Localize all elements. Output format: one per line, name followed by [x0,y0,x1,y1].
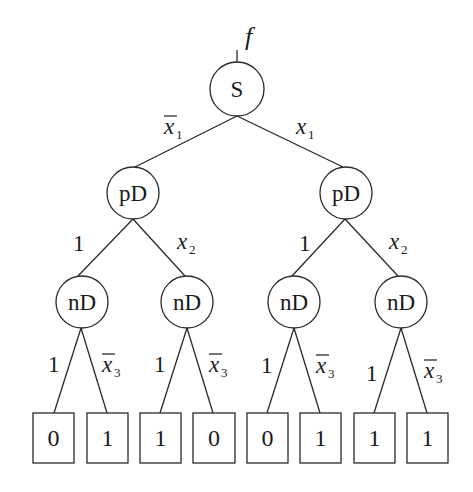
diagram-canvas: f S pD pD [0,0,473,492]
edge-root-right [237,116,343,167]
edge-root-left [135,116,237,167]
label-nd2-x3-var: x [208,352,220,377]
node-s: S [210,62,264,116]
label-pdr-x2: x 2 [388,229,408,257]
label-not-x1-sub: 1 [176,127,183,142]
label-x1: x 1 [295,114,315,142]
label-nd2-not-x3: x 3 [208,352,228,380]
node-nd-1: nD [56,276,108,328]
leaf-5-value: 0 [262,425,274,451]
label-nd4-x3-var: x [423,358,435,383]
label-nd2-x3-sub: 3 [221,365,228,380]
label-pdl-one: 1 [73,231,85,256]
node-nd-4-label: nD [387,290,415,315]
edge-nd4-1 [374,328,401,413]
label-pdr-x2-var: x [388,229,400,254]
node-pd-left-label: pD [119,181,147,206]
leaf-5: 0 [247,413,288,463]
node-nd-1-label: nD [68,290,96,315]
leaf-2: 1 [87,413,128,463]
leaf-7: 1 [354,413,395,463]
label-nd1-one: 1 [48,352,60,377]
label-pdl-x2-sub: 2 [189,242,196,257]
label-nd3-x3-sub: 3 [328,366,335,381]
node-nd-2-label: nD [173,290,201,315]
leaf-8: 1 [407,413,448,463]
node-pd-right-label: pD [332,181,360,206]
label-pdl-x2-var: x [176,229,188,254]
leaf-1-value: 0 [48,425,60,451]
node-nd-3-label: nD [280,290,308,315]
leaf-4: 0 [193,413,235,463]
label-nd4-not-x3: x 3 [423,358,443,386]
output-label-f: f [245,22,256,51]
node-nd-3: nD [268,276,320,328]
node-s-label: S [231,77,244,102]
label-x1-sub: 1 [308,127,315,142]
leaf-8-value: 1 [422,425,434,451]
label-nd3-not-x3: x 3 [315,353,335,381]
leaf-2-value: 1 [102,425,114,451]
leaf-6: 1 [300,413,341,463]
leaf-3-value: 1 [155,425,167,451]
node-nd-4: nD [375,276,427,328]
edge-pdl-1 [78,219,133,276]
node-nd-2: nD [161,276,213,328]
leaf-4-value: 0 [208,425,220,451]
decision-diagram: f S pD pD [0,0,473,492]
leaf-1: 0 [33,413,74,463]
label-nd1-not-x3: x 3 [101,352,121,380]
label-pdl-x2: x 2 [176,229,196,257]
label-not-x1-var: x [163,114,175,139]
label-nd4-x3-sub: 3 [436,371,443,386]
label-nd3-one: 1 [261,353,273,378]
leaf-6-value: 1 [315,425,327,451]
label-nd1-x3-sub: 3 [114,365,121,380]
label-x1-var: x [295,114,307,139]
label-not-x1: x 1 [163,114,183,142]
leaf-3: 1 [140,413,181,463]
label-nd2-one: 1 [154,352,166,377]
label-pdr-x2-sub: 2 [401,242,408,257]
label-nd1-x3-var: x [101,352,113,377]
label-pdr-one: 1 [299,231,311,256]
label-nd3-x3-var: x [315,353,327,378]
node-pd-right: pD [320,167,372,219]
label-nd4-one: 1 [366,361,378,386]
leaf-7-value: 1 [369,425,381,451]
node-pd-left: pD [107,167,159,219]
